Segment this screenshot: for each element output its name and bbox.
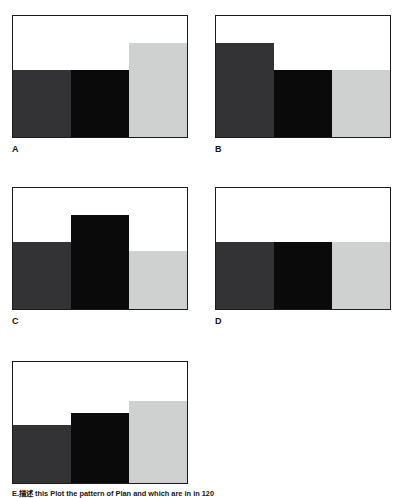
bar-e-3 bbox=[129, 401, 187, 483]
bar-group-d bbox=[216, 188, 390, 309]
figure-caption: E.描述 this Plot the pattern of Plan and w… bbox=[12, 489, 404, 498]
plot-area-d bbox=[215, 187, 391, 310]
bar-a-2 bbox=[71, 70, 129, 137]
panel-e bbox=[12, 361, 188, 484]
panel-a: A bbox=[12, 15, 188, 155]
bar-a-1 bbox=[13, 70, 71, 137]
bar-group-a bbox=[13, 16, 187, 137]
panel-b: B bbox=[215, 15, 391, 155]
bar-d-1 bbox=[216, 242, 274, 309]
bar-e-2 bbox=[71, 413, 129, 483]
plot-area-c bbox=[12, 187, 188, 310]
panel-label-a: A bbox=[12, 144, 188, 155]
bar-b-3 bbox=[332, 70, 390, 137]
panel-label-c: C bbox=[12, 316, 188, 327]
bar-c-1 bbox=[13, 242, 71, 309]
bar-c-3 bbox=[129, 251, 187, 309]
bar-group-e bbox=[13, 362, 187, 483]
plot-area-b bbox=[215, 15, 391, 138]
bar-a-3 bbox=[129, 43, 187, 137]
panel-d: D bbox=[215, 187, 391, 327]
panel-label-d: D bbox=[215, 316, 391, 327]
panel-label-b: B bbox=[215, 144, 391, 155]
bar-e-1 bbox=[13, 425, 71, 483]
bar-b-2 bbox=[274, 70, 332, 137]
bar-d-2 bbox=[274, 242, 332, 309]
bar-d-3 bbox=[332, 242, 390, 309]
bar-c-2 bbox=[71, 215, 129, 309]
bar-group-c bbox=[13, 188, 187, 309]
bar-group-b bbox=[216, 16, 390, 137]
plot-area-a bbox=[12, 15, 188, 138]
bar-b-1 bbox=[216, 43, 274, 137]
plot-area-e bbox=[12, 361, 188, 484]
panel-c: C bbox=[12, 187, 188, 327]
bar-chart-figure: A B C bbox=[0, 0, 406, 498]
